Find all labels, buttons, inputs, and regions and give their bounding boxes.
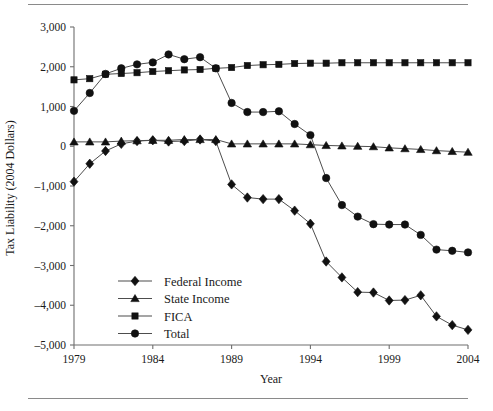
y-axis-tick-label: 2,000 — [40, 61, 66, 74]
series-total — [70, 51, 471, 256]
legend-item-label: Total — [164, 327, 190, 341]
y-axis-tick-label: –5,000 — [33, 339, 66, 352]
data-point-circle — [165, 51, 172, 58]
data-point-diamond — [306, 219, 314, 228]
data-point-circle — [338, 201, 345, 208]
data-point-diamond — [448, 320, 456, 329]
x-axis-title: Year — [260, 372, 282, 386]
data-point-diamond — [228, 180, 236, 189]
legend-item-state-income: State Income — [118, 292, 230, 306]
y-axis-tick-label: 0 — [60, 140, 66, 152]
y-axis-tick-label: –3,000 — [33, 260, 66, 273]
data-point-diamond — [354, 287, 362, 296]
data-point-diamond — [243, 193, 251, 202]
x-axis-tick-label: 1994 — [299, 353, 322, 365]
x-axis-tick-label: 2004 — [457, 353, 480, 365]
y-axis-tick-label: –1,000 — [33, 180, 66, 193]
data-point-square — [449, 60, 455, 66]
data-point-circle — [212, 65, 219, 72]
tax-liability-line-chart: –5,000–4,000–3,000–2,000–1,00001,0002,00… — [0, 8, 493, 393]
data-point-square — [355, 60, 361, 66]
data-series-group — [70, 51, 472, 335]
data-point-diamond — [464, 325, 472, 334]
data-point-square — [402, 60, 408, 66]
data-point-circle — [70, 107, 77, 114]
data-point-square — [71, 77, 77, 83]
legend-item-label: FICA — [164, 310, 192, 324]
data-point-circle — [370, 220, 377, 227]
data-point-square — [87, 76, 93, 82]
data-point-circle — [196, 53, 203, 60]
data-point-square — [244, 62, 250, 68]
legend-item-label: Federal Income — [164, 275, 243, 289]
x-axis-tick-label: 1984 — [141, 353, 164, 365]
data-point-circle — [433, 246, 440, 253]
data-point-diamond — [291, 206, 299, 215]
legend-item-label: State Income — [164, 292, 230, 306]
data-point-circle — [228, 99, 235, 106]
data-point-square — [150, 68, 156, 74]
data-point-circle — [259, 108, 266, 115]
legend-marker-circle — [131, 330, 138, 337]
data-point-diamond — [385, 296, 393, 305]
data-point-square — [165, 68, 171, 74]
data-point-square — [197, 66, 203, 72]
legend-marker-diamond — [131, 276, 139, 285]
data-point-square — [465, 60, 471, 66]
y-axis-tick-label: 3,000 — [40, 21, 66, 34]
series-state-income — [70, 136, 472, 156]
data-point-square — [433, 60, 439, 66]
data-point-square — [307, 60, 313, 66]
x-axis-tick-label: 1989 — [220, 353, 243, 365]
legend-item-total: Total — [118, 327, 190, 341]
data-point-circle — [102, 70, 109, 77]
data-point-circle — [401, 221, 408, 228]
data-point-square — [292, 60, 298, 66]
legend-item-fica: FICA — [118, 310, 192, 324]
x-axis: 197919841989199419992004 — [63, 345, 480, 365]
y-axis-tick-label: –2,000 — [33, 220, 66, 233]
data-point-diamond — [275, 194, 283, 203]
data-point-circle — [118, 65, 125, 72]
legend-marker-square — [132, 313, 138, 319]
data-point-circle — [133, 61, 140, 68]
y-axis-title: Tax Liability (2004 Dollars) — [3, 120, 17, 255]
data-point-diamond — [102, 146, 110, 155]
data-point-square — [134, 70, 140, 76]
data-point-square — [323, 60, 329, 66]
data-point-square — [228, 64, 234, 70]
data-point-square — [370, 60, 376, 66]
data-point-circle — [244, 108, 251, 115]
chart-legend: Federal IncomeState IncomeFICATotal — [118, 275, 243, 342]
data-point-circle — [354, 213, 361, 220]
data-point-square — [339, 60, 345, 66]
x-axis-tick-label: 1979 — [63, 353, 86, 365]
figure-top-rule — [28, 4, 468, 5]
legend-item-federal-income: Federal Income — [118, 275, 243, 289]
chart-canvas: –5,000–4,000–3,000–2,000–1,00001,0002,00… — [0, 8, 493, 393]
data-point-circle — [464, 249, 471, 256]
data-point-circle — [275, 108, 282, 115]
series-fica — [71, 60, 471, 83]
series-polyline — [74, 54, 468, 252]
data-point-circle — [385, 221, 392, 228]
data-point-circle — [307, 131, 314, 138]
data-point-diamond — [369, 288, 377, 297]
series-federal-income — [70, 135, 472, 335]
y-axis-tick-label: –4,000 — [33, 299, 66, 312]
data-point-circle — [417, 231, 424, 238]
data-point-diamond — [401, 295, 409, 304]
data-point-circle — [181, 55, 188, 62]
data-point-square — [181, 67, 187, 73]
data-point-diamond — [259, 194, 267, 203]
data-point-square — [276, 61, 282, 67]
figure-bottom-rule — [28, 398, 468, 399]
data-point-square — [418, 60, 424, 66]
data-point-circle — [149, 59, 156, 66]
data-point-square — [386, 60, 392, 66]
y-axis-tick-label: 1,000 — [40, 101, 66, 114]
data-point-circle — [291, 120, 298, 127]
data-point-circle — [86, 89, 93, 96]
data-point-square — [260, 62, 266, 68]
data-point-circle — [322, 174, 329, 181]
